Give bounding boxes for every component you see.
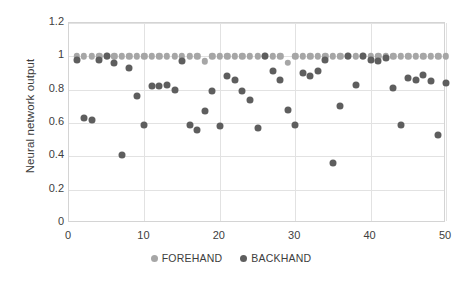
data-point [344, 53, 351, 60]
data-point [300, 53, 306, 59]
data-point [352, 81, 359, 88]
data-point [269, 68, 276, 75]
legend-entry-backhand[interactable]: BACKHAND [240, 252, 311, 264]
data-point [156, 83, 163, 90]
data-point [352, 53, 358, 59]
data-point [134, 53, 140, 59]
data-point [284, 106, 291, 113]
data-point [186, 121, 193, 128]
legend-marker-icon [151, 255, 158, 262]
data-point [88, 53, 94, 59]
data-point [126, 65, 133, 72]
data-point [148, 83, 155, 90]
data-point [141, 53, 147, 59]
data-point [231, 76, 238, 83]
data-point [427, 78, 434, 85]
data-point [217, 53, 223, 59]
data-point [224, 53, 230, 59]
data-point [202, 58, 208, 64]
data-point [141, 121, 148, 128]
data-point [224, 73, 231, 80]
data-point [156, 53, 162, 59]
gridline-horizontal [69, 156, 444, 157]
data-point [367, 56, 374, 63]
data-point [435, 131, 442, 138]
data-point [81, 53, 87, 59]
data-point [201, 108, 208, 115]
data-point [133, 93, 140, 100]
data-point [239, 53, 245, 59]
data-point [232, 53, 238, 59]
data-point [292, 53, 298, 59]
data-point [246, 96, 253, 103]
x-axis-tick-label: 30 [279, 230, 309, 241]
data-point [96, 56, 103, 63]
data-point [405, 53, 411, 59]
data-point [420, 71, 427, 78]
data-point [443, 80, 450, 87]
legend-label: FOREHAND [162, 252, 223, 264]
data-point [186, 53, 192, 59]
data-point [284, 60, 290, 66]
data-point [179, 58, 186, 65]
gridline-horizontal [69, 90, 444, 91]
data-point [209, 53, 215, 59]
legend-label: BACKHAND [251, 252, 311, 264]
data-point [299, 70, 306, 77]
data-point [111, 60, 118, 67]
data-point [126, 53, 132, 59]
data-point [307, 53, 313, 59]
data-point [103, 53, 110, 60]
data-point [315, 53, 321, 59]
data-point [412, 76, 419, 83]
data-point [330, 53, 336, 59]
data-point [194, 53, 200, 59]
data-point [269, 53, 275, 59]
x-axis-tick-label: 20 [204, 230, 234, 241]
x-axis-tick-label: 40 [355, 230, 385, 241]
data-point [337, 103, 344, 110]
data-point [171, 53, 177, 59]
data-point [307, 73, 314, 80]
gridline-horizontal [69, 23, 444, 24]
data-point [194, 126, 201, 133]
data-point [329, 160, 336, 167]
data-point [254, 125, 261, 132]
data-point [164, 81, 171, 88]
legend-marker-icon [240, 255, 247, 262]
x-axis-tick-label: 0 [53, 230, 83, 241]
data-point [435, 53, 441, 59]
data-point [81, 115, 88, 122]
data-point [428, 53, 434, 59]
chart-legend: FOREHANDBACKHAND [0, 252, 462, 264]
data-point [277, 76, 284, 83]
data-point [149, 53, 155, 59]
data-point [209, 88, 216, 95]
data-point [390, 53, 396, 59]
data-point [88, 116, 95, 123]
data-point [247, 53, 253, 59]
data-point [239, 88, 246, 95]
data-point [119, 53, 125, 59]
data-point [390, 85, 397, 92]
data-point [420, 53, 426, 59]
data-point [277, 53, 283, 59]
data-point [398, 53, 404, 59]
scatter-chart: Neural network output 00.20.40.60.811.2 … [0, 0, 462, 291]
data-point [73, 56, 80, 63]
data-point [314, 68, 321, 75]
data-point [171, 86, 178, 93]
data-point [375, 58, 382, 65]
x-axis-tick-label: 50 [430, 230, 460, 241]
data-point [397, 121, 404, 128]
data-point [413, 53, 419, 59]
x-axis-tick-label: 10 [128, 230, 158, 241]
data-point [262, 53, 269, 60]
data-point [292, 121, 299, 128]
plot-area [68, 22, 445, 222]
legend-entry-forehand[interactable]: FOREHAND [151, 252, 223, 264]
data-point [337, 53, 343, 59]
data-point [405, 75, 412, 82]
gridline-horizontal [69, 190, 444, 191]
data-point [216, 123, 223, 130]
